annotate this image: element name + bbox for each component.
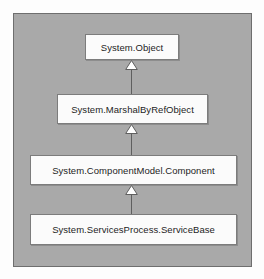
class-box-label: System.ServicesProcess.ServiceBase xyxy=(52,224,215,235)
class-box-label: System.ComponentModel.Component xyxy=(52,165,215,176)
class-box-marshal-by-ref-object[interactable]: System.MarshalByRefObject xyxy=(57,94,208,124)
class-box-label: System.MarshalByRefObject xyxy=(71,104,194,115)
class-hierarchy-diagram: System.Object System.MarshalByRefObject xyxy=(0,0,264,279)
generalization-arrow-to-component xyxy=(125,185,139,214)
class-box-system-object[interactable]: System.Object xyxy=(85,34,179,60)
connector-line xyxy=(131,133,132,155)
generalization-arrow-to-marshal-by-ref-object xyxy=(125,124,139,155)
class-box-component[interactable]: System.ComponentModel.Component xyxy=(30,155,237,185)
connector-line xyxy=(131,194,132,214)
connector-line xyxy=(131,69,132,94)
class-box-label: System.Object xyxy=(101,42,163,53)
class-box-service-base[interactable]: System.ServicesProcess.ServiceBase xyxy=(30,214,237,245)
diagram-panel: System.Object System.MarshalByRefObject xyxy=(13,13,252,267)
generalization-arrow-to-system-object xyxy=(125,60,139,94)
